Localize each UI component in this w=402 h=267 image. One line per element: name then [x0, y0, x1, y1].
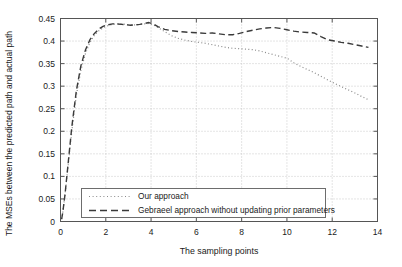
x-tick-label: 0 [49, 228, 73, 237]
legend-item-gebraeel-approach: Gebraeel approach without updating prior… [82, 203, 325, 218]
chart-legend: Our approach Gebraeel approach without u… [81, 188, 326, 218]
legend-item-our-approach: Our approach [82, 189, 325, 204]
y-tick-label: 0.15 [25, 150, 55, 159]
x-tick-label: 8 [230, 228, 254, 237]
y-tick-label: 0.4 [25, 37, 55, 46]
x-tick-label: 14 [366, 228, 390, 237]
x-tick-label: 6 [184, 228, 208, 237]
y-tick-label: 0.1 [25, 172, 55, 181]
legend-swatch-dotted [88, 189, 132, 204]
y-tick-label: 0.05 [25, 195, 55, 204]
chart-figure: The MSEs between the predicted path and … [0, 0, 402, 267]
legend-label-our-approach: Our approach [138, 189, 189, 204]
x-tick-label: 12 [320, 228, 344, 237]
legend-swatch-dashed [88, 203, 132, 218]
y-tick-label: 0.35 [25, 60, 55, 69]
legend-label-gebraeel-approach: Gebraeel approach without updating prior… [138, 203, 335, 218]
x-tick-label: 10 [275, 228, 299, 237]
y-tick-label: 0.45 [25, 15, 55, 24]
x-tick-label: 2 [94, 228, 118, 237]
y-tick-label: 0 [25, 218, 55, 227]
y-tick-label: 0.25 [25, 105, 55, 114]
x-axis-label: The sampling points [60, 246, 378, 256]
y-axis-label: The MSEs between the predicted path and … [2, 0, 16, 267]
y-tick-label: 0.3 [25, 82, 55, 91]
x-tick-label: 4 [139, 228, 163, 237]
y-tick-label: 0.2 [25, 127, 55, 136]
